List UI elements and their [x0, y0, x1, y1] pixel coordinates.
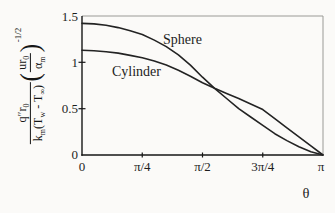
- x-tick-label-pi4: π/4: [134, 159, 151, 174]
- y-tick-label-0_5: 0.5: [62, 101, 78, 116]
- sphere-curve-label: Sphere: [163, 32, 202, 47]
- big-paren-open: (: [19, 73, 42, 81]
- k-subscript: m: [38, 129, 47, 135]
- big-paren-close: ): [19, 44, 42, 52]
- sphere-curve: [82, 23, 323, 155]
- factor-numerator: ur0: [16, 53, 30, 73]
- y-axis-title: q″r0 km(Tw - T∞) ( ur0 αm ) -1/2: [16, 28, 44, 144]
- alpha-term: α: [31, 63, 45, 69]
- x-tick-label-pi2: π/2: [194, 159, 211, 174]
- y-tick-label-0: 0: [72, 147, 79, 162]
- tw-subscript: w: [38, 112, 47, 118]
- main-fraction: q″r0 km(Tw - T∞): [16, 82, 44, 144]
- q-r-term: q″r: [15, 108, 29, 123]
- x-axis-title: θ: [303, 185, 310, 201]
- alpha-subscript: m: [38, 56, 47, 62]
- tw-term: (T: [31, 118, 45, 129]
- ur-term: ur: [15, 60, 29, 70]
- paren-close-small: ): [31, 85, 45, 89]
- y-tick-label-1_5: 1.5: [62, 9, 78, 24]
- plot-canvas: 1.5 1 0.5 0 0 π/4 π/2 3π/4 π θ Sphere Cy…: [0, 0, 335, 213]
- x-tick-label-pi: π: [318, 159, 325, 174]
- cylinder-curve-label: Cylinder: [112, 64, 161, 79]
- y-tick-label-1: 1: [72, 55, 79, 70]
- fraction-numerator: q″r0: [16, 101, 30, 126]
- x-tick-label-0: 0: [79, 159, 86, 174]
- k-term: k: [31, 135, 45, 141]
- factor-fraction: ur0 αm: [16, 53, 44, 73]
- tinf-term: - T: [31, 95, 45, 112]
- x-tick-label-3pi4: 3π/4: [251, 159, 275, 174]
- factor-denominator: αm: [30, 53, 45, 72]
- heat-flux-chart: 1.5 1 0.5 0 0 π/4 π/2 3π/4 π θ Sphere Cy…: [0, 0, 335, 213]
- exponent: -1/2: [14, 28, 23, 43]
- fraction-denominator: km(Tw - T∞): [30, 82, 45, 144]
- tinf-subscript: ∞: [38, 89, 47, 95]
